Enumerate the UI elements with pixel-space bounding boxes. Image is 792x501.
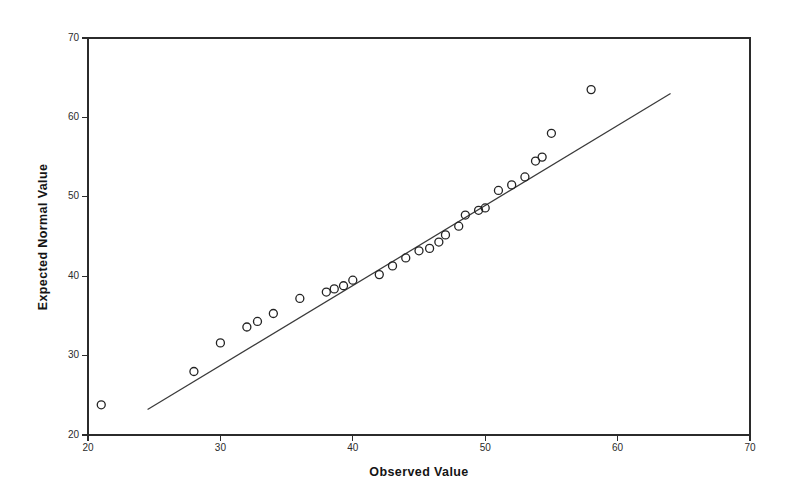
y-tick-label: 30 (68, 349, 80, 360)
data-point (426, 244, 434, 252)
data-point (547, 129, 555, 137)
data-point (375, 271, 383, 279)
data-point (441, 231, 449, 239)
reference-line-group (148, 94, 671, 410)
plot-axes (88, 38, 750, 435)
data-point (296, 294, 304, 302)
y-axis-title: Expected Normal Value (36, 164, 50, 311)
data-point (330, 285, 338, 293)
qq-plot-canvas: 203040506070 203040506070 Observed Value… (0, 0, 792, 501)
data-point (415, 247, 423, 255)
x-tick-label: 50 (480, 442, 492, 453)
data-point (349, 276, 357, 284)
x-tick-label: 70 (744, 442, 756, 453)
y-axis-ticks: 203040506070 (68, 32, 88, 440)
x-axis-ticks: 203040506070 (82, 435, 756, 453)
y-tick-label: 20 (68, 429, 80, 440)
data-point (435, 238, 443, 246)
data-point (455, 222, 463, 230)
data-point (508, 181, 516, 189)
y-tick-label: 50 (68, 190, 80, 201)
y-tick-label: 70 (68, 32, 80, 43)
x-tick-label: 40 (347, 442, 359, 453)
data-point (190, 367, 198, 375)
qq-plot-figure: 203040506070 203040506070 Observed Value… (0, 0, 792, 501)
y-tick-label: 40 (68, 270, 80, 281)
data-point (216, 339, 224, 347)
x-tick-label: 30 (215, 442, 227, 453)
data-point (402, 254, 410, 262)
x-tick-label: 60 (612, 442, 624, 453)
data-point (253, 317, 261, 325)
reference-line (148, 94, 671, 410)
data-point (587, 86, 595, 94)
data-point (340, 282, 348, 290)
x-axis-title: Observed Value (369, 465, 468, 479)
data-point (494, 186, 502, 194)
data-point (243, 323, 251, 331)
data-point (322, 288, 330, 296)
data-point (538, 153, 546, 161)
scatter-points-group (97, 86, 595, 409)
y-tick-label: 60 (68, 111, 80, 122)
data-point (389, 262, 397, 270)
data-point (521, 173, 529, 181)
data-point (269, 310, 277, 318)
axis-frame (88, 38, 750, 435)
x-tick-label: 20 (82, 442, 94, 453)
data-point (97, 401, 105, 409)
